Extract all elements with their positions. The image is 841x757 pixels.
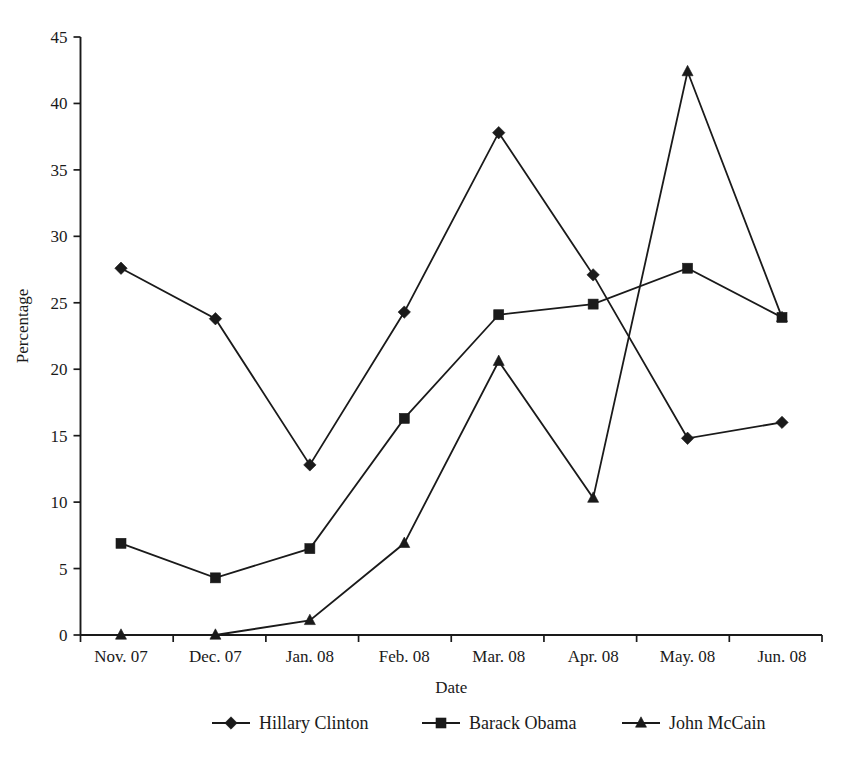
data-point-triangle — [304, 614, 315, 624]
legend-item-2[interactable]: Barack Obama — [422, 713, 576, 733]
series-3 — [116, 65, 788, 639]
y-tick-label: 20 — [51, 360, 68, 379]
data-point-diamond — [225, 717, 237, 729]
y-tick-label: 25 — [51, 294, 68, 313]
x-tick-label: Jun. 08 — [757, 647, 806, 666]
legend-label: Hillary Clinton — [259, 713, 369, 733]
data-point-diamond — [398, 306, 410, 318]
y-tick-label: 15 — [51, 427, 68, 446]
legend-item-3[interactable]: John McCain — [622, 713, 766, 733]
series-line — [121, 72, 782, 635]
y-tick-label: 10 — [51, 493, 68, 512]
data-series — [115, 65, 788, 639]
data-point-triangle — [399, 537, 410, 547]
x-tick-label: May. 08 — [660, 647, 716, 666]
data-point-square — [305, 544, 315, 554]
data-point-triangle — [682, 65, 693, 75]
data-point-diamond — [776, 416, 788, 428]
y-tick-label: 35 — [51, 161, 68, 180]
data-point-square — [116, 538, 126, 548]
data-point-square — [436, 718, 446, 728]
data-point-square — [494, 310, 504, 320]
data-point-diamond — [681, 432, 693, 444]
data-point-square — [588, 299, 598, 309]
series-1 — [115, 126, 788, 471]
x-tick-label: Jan. 08 — [286, 647, 334, 666]
data-point-triangle — [493, 355, 504, 365]
data-point-triangle — [116, 629, 127, 639]
data-point-diamond — [587, 269, 599, 281]
chart-canvas: 051015202530354045 Nov. 07Dec. 07Jan. 08… — [0, 0, 841, 757]
y-tick-label: 5 — [59, 560, 68, 579]
y-tick-label: 30 — [51, 227, 68, 246]
y-axis-title: Percentage — [13, 289, 32, 364]
chart-legend: Hillary ClintonBarack ObamaJohn McCain — [212, 713, 766, 733]
series-line — [121, 268, 782, 578]
data-point-square — [399, 413, 409, 423]
x-axis-ticks: Nov. 07Dec. 07Jan. 08Feb. 08Mar. 08Apr. … — [81, 635, 823, 666]
x-axis-title: Date — [435, 678, 467, 697]
y-tick-label: 40 — [51, 94, 68, 113]
y-tick-label: 45 — [51, 28, 68, 47]
data-point-diamond — [493, 126, 505, 138]
y-axis-ticks: 051015202530354045 — [51, 28, 81, 645]
axes — [81, 37, 823, 635]
data-point-diamond — [115, 262, 127, 274]
legend-label: Barack Obama — [469, 713, 576, 733]
x-tick-label: Nov. 07 — [94, 647, 148, 666]
legend-item-1[interactable]: Hillary Clinton — [212, 713, 369, 733]
y-tick-label: 0 — [59, 626, 68, 645]
series-line — [121, 133, 782, 465]
data-point-triangle — [636, 717, 647, 727]
line-chart: 051015202530354045 Nov. 07Dec. 07Jan. 08… — [0, 0, 841, 757]
data-point-diamond — [209, 313, 221, 325]
x-tick-label: Feb. 08 — [379, 647, 430, 666]
data-point-square — [210, 573, 220, 583]
x-tick-label: Dec. 07 — [189, 647, 242, 666]
x-tick-label: Apr. 08 — [568, 647, 619, 666]
data-point-diamond — [304, 459, 316, 471]
series-2 — [116, 263, 787, 583]
x-tick-label: Mar. 08 — [472, 647, 525, 666]
data-point-square — [683, 263, 693, 273]
legend-label: John McCain — [669, 713, 766, 733]
